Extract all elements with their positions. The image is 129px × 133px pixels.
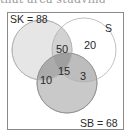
- region-s-only-value: 20: [84, 39, 96, 51]
- region-triple-value: 15: [58, 65, 70, 77]
- region-sk-sb-value: 10: [40, 74, 52, 86]
- set-sb-label: SB = 68: [80, 117, 118, 129]
- venn-diagram: SK = 88 S SB = 68 50 20 10 15 3: [0, 0, 129, 133]
- set-sk-label: SK = 88: [10, 13, 48, 25]
- region-s-sb-value: 3: [80, 70, 86, 82]
- set-s-label: S: [105, 22, 112, 34]
- region-sk-s-value: 50: [56, 43, 68, 55]
